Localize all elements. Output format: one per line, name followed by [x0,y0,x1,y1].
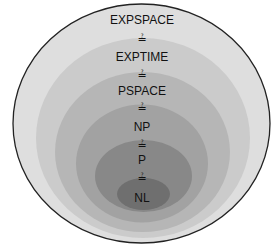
expspace-label: EXPSPACE [110,13,174,27]
complexity-class-diagram: EXPSPACE ≟ EXPTIME ≟ PSPACE ≟ NP ≟ P ≟ N… [0,0,274,244]
question-equals-symbol: ≟ [137,172,146,185]
exptime-label: EXPTIME [116,50,169,64]
pspace-label: PSPACE [118,84,166,98]
question-equals-symbol: ≟ [137,69,146,82]
p-label: P [138,153,146,167]
question-equals-symbol: ≟ [137,139,146,152]
question-equals-symbol: ≟ [137,102,146,115]
np-label: NP [134,120,151,134]
question-equals-symbol: ≟ [137,33,146,46]
nl-label: NL [134,191,150,205]
